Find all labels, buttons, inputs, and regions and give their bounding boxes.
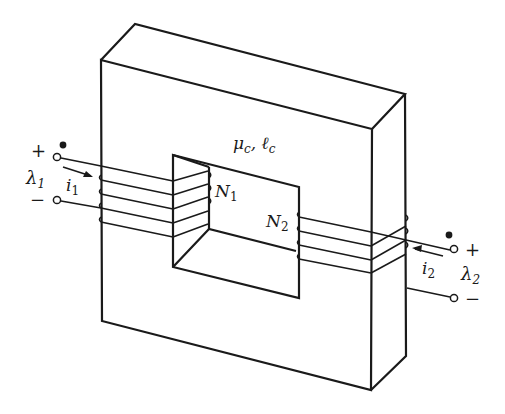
turns-label-1: N1 — [214, 181, 238, 204]
terminal-2-plus — [450, 245, 457, 252]
core-label: μc, ℓc — [233, 133, 276, 156]
polarity-dot-2 — [446, 232, 453, 239]
core-front-face — [101, 60, 372, 390]
plus-sign-2: + — [465, 239, 480, 260]
current-label-1: i1 — [66, 175, 79, 198]
flux-label-2: λ2 — [460, 263, 480, 287]
plus-sign-1: + — [31, 140, 46, 161]
core-side-face — [371, 94, 406, 390]
turns-label-2: N2 — [265, 211, 289, 234]
polarity-dot-1 — [60, 142, 67, 149]
flux-label-1: λ1 — [25, 167, 45, 191]
terminal-2-minus — [450, 294, 457, 301]
winding-2 — [298, 212, 458, 302]
window-inner-bottom — [173, 229, 296, 267]
current-label-2: i2 — [422, 258, 435, 281]
arrowhead-1-icon — [83, 171, 93, 177]
labels: μc, ℓc N1 N2 + − λ1 i1 + − λ2 i2 — [25, 133, 480, 309]
core-top-face — [101, 24, 405, 129]
window-inner-top-left — [173, 155, 209, 167]
arrowhead-2-icon — [412, 245, 422, 252]
minus-sign-1: − — [30, 189, 45, 210]
magnetic-core — [101, 24, 406, 390]
minus-sign-2: − — [465, 288, 480, 309]
terminal-1-plus — [53, 153, 60, 160]
transformer-diagram: μc, ℓc N1 N2 + − λ1 i1 + − λ2 i2 — [0, 0, 505, 414]
terminal-1-minus — [53, 196, 60, 203]
